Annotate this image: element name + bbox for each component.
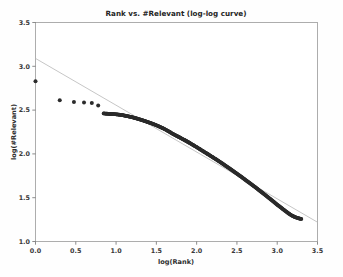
data-point <box>58 98 62 102</box>
chart-title: Rank vs. #Relevant (log-log curve) <box>106 9 247 18</box>
data-point <box>72 100 76 104</box>
x-tick-label: 2.5 <box>231 247 242 255</box>
x-tick-label: 3.5 <box>312 247 323 255</box>
x-tick-label: 0.0 <box>30 247 42 255</box>
plot-frame <box>36 23 318 242</box>
y-tick-label: 2.0 <box>19 150 31 158</box>
x-tick-label: 1.5 <box>151 247 162 255</box>
y-axis-title: log(#Relevant) <box>10 104 18 160</box>
data-point <box>96 103 100 107</box>
y-tick-label: 1.5 <box>19 194 30 202</box>
x-tick-label: 3.0 <box>272 247 284 255</box>
y-tick-label: 3.5 <box>19 19 30 27</box>
y-tick-label: 2.5 <box>19 106 30 114</box>
data-point <box>82 101 86 105</box>
data-point <box>90 101 94 105</box>
y-tick-label: 3.0 <box>19 63 31 71</box>
x-axis-title: log(Rank) <box>158 258 194 266</box>
x-tick-label: 2.0 <box>191 247 203 255</box>
chart-canvas: 0.00.51.01.52.02.53.03.5 1.01.52.02.53.0… <box>0 0 343 277</box>
data-point <box>300 217 304 221</box>
y-tick-label: 1.0 <box>19 238 31 246</box>
data-point <box>34 79 38 83</box>
chart-figure: 0.00.51.01.52.02.53.03.5 1.01.52.02.53.0… <box>0 0 343 277</box>
x-tick-label: 1.0 <box>110 247 122 255</box>
x-tick-label: 0.5 <box>70 247 81 255</box>
